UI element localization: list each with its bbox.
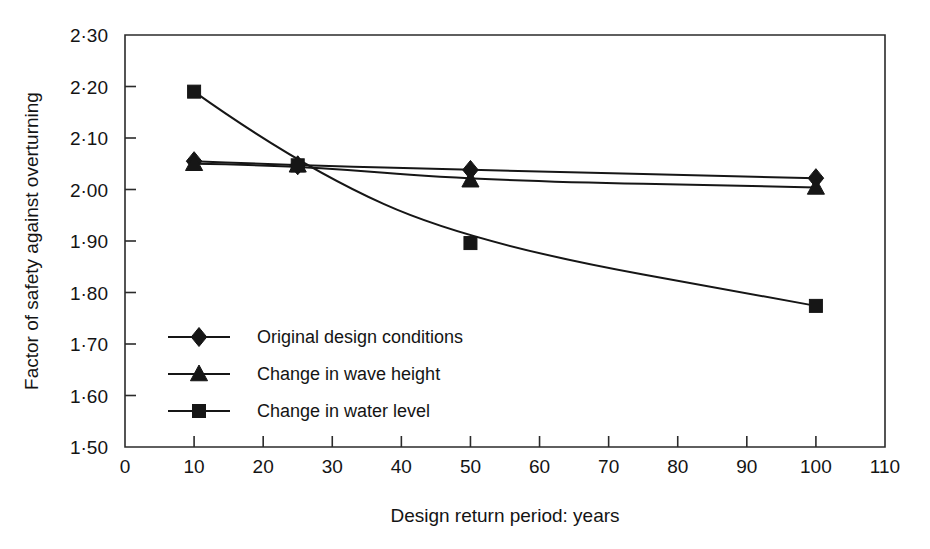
x-tick-label: 60 xyxy=(529,456,550,477)
marker-square xyxy=(193,405,206,418)
marker-square xyxy=(464,237,477,250)
y-tick-label: 2·30 xyxy=(70,25,108,46)
x-tick-label: 70 xyxy=(598,456,619,477)
x-tick-label: 90 xyxy=(736,456,757,477)
x-axis-title: Design return period: years xyxy=(390,505,619,526)
x-tick-label: 40 xyxy=(391,456,412,477)
x-tick-label: 20 xyxy=(253,456,274,477)
y-tick-label: 2·10 xyxy=(70,128,108,149)
y-tick-label: 1·60 xyxy=(70,386,108,407)
line-chart: 1·501·601·701·801·902·002·102·202·30 010… xyxy=(0,0,930,549)
y-tick-label: 1·70 xyxy=(70,334,108,355)
x-tick-label: 0 xyxy=(120,456,131,477)
x-tick-label: 10 xyxy=(184,456,205,477)
marker-square xyxy=(291,159,304,172)
y-tick-label: 2·20 xyxy=(70,77,108,98)
chart-page: 1·501·601·701·801·902·002·102·202·30 010… xyxy=(0,0,930,549)
marker-square xyxy=(809,299,822,312)
legend-label: Original design conditions xyxy=(257,327,463,347)
y-tick-label: 1·90 xyxy=(70,231,108,252)
x-tick-label: 80 xyxy=(667,456,688,477)
y-axis-title: Factor of safety against overturning xyxy=(21,92,42,390)
y-tick-label: 2·00 xyxy=(70,180,108,201)
marker-square xyxy=(188,85,201,98)
x-tick-label: 100 xyxy=(800,456,832,477)
y-tick-label: 1·80 xyxy=(70,283,108,304)
x-tick-label: 50 xyxy=(460,456,481,477)
x-tick-label: 30 xyxy=(322,456,343,477)
x-tick-label: 110 xyxy=(870,456,900,477)
legend-label: Change in water level xyxy=(257,401,430,421)
y-tick-label: 1·50 xyxy=(70,437,108,458)
legend-label: Change in wave height xyxy=(257,364,440,384)
